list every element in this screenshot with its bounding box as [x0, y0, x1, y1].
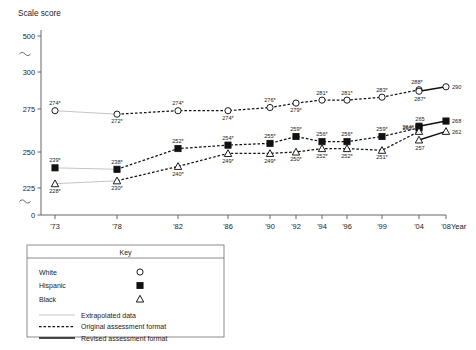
data-label-white: 281* — [341, 90, 353, 96]
data-label-black: 228* — [49, 188, 61, 194]
data-point-white — [114, 111, 120, 117]
y-axis-break-upper-icon — [20, 52, 31, 55]
legend-marker-hispanic — [137, 282, 143, 288]
legend-line-label-2: Revised assessment format — [81, 335, 167, 342]
x-tick-label: '94 — [317, 222, 327, 231]
data-label-black: 249* — [264, 158, 276, 164]
x-tick-label: '86 — [223, 222, 233, 231]
data-label-white: 274* — [222, 115, 234, 121]
data-label-revised-hispanic: 265 — [415, 116, 424, 122]
data-label-black: 252* — [341, 153, 353, 159]
data-point-hispanic — [379, 133, 385, 139]
data-point-white — [379, 94, 385, 100]
data-point-white — [267, 104, 273, 110]
x-tick-label: '90 — [265, 222, 275, 231]
data-point-white — [175, 108, 181, 114]
y-tick-label: 275 — [23, 105, 35, 114]
legend-marker-white — [137, 269, 143, 275]
data-label-black: 230* — [111, 185, 123, 191]
data-label-white: 279* — [290, 107, 302, 113]
data-point-white — [225, 108, 231, 114]
x-tick-label: '82 — [173, 222, 183, 231]
data-label-white: 276* — [264, 97, 276, 103]
trend-line-chart: Scale score0225250275300500'73'78'82'86'… — [0, 0, 476, 350]
data-label-white: 288* — [411, 79, 423, 85]
data-label-white: 272* — [111, 118, 123, 124]
legend-line-label-1: Original assessment format — [81, 323, 166, 331]
data-label-hispanic: 252* — [172, 138, 184, 144]
data-point-black — [318, 145, 325, 152]
data-point-revised-white — [443, 84, 449, 90]
data-point-white — [344, 97, 350, 103]
data-label-black: 240* — [172, 171, 184, 177]
x-tick-label: '73 — [50, 222, 60, 231]
y-tick-label: 0 — [31, 211, 35, 220]
data-label-black: 252* — [316, 153, 328, 159]
data-label-hispanic: 254* — [222, 135, 234, 141]
extrapolated-segment-black — [55, 181, 117, 184]
data-label-hispanic: 255* — [264, 133, 276, 139]
data-point-white — [319, 97, 325, 103]
data-point-white — [52, 108, 58, 114]
data-label-revised-white: 287* — [414, 96, 426, 102]
data-label-white: 274* — [49, 100, 61, 106]
data-label-white: 281* — [316, 90, 328, 96]
data-label-hispanic: 259* — [376, 126, 388, 132]
x-tick-label: '08 — [441, 222, 451, 231]
x-tick-label: '99 — [377, 222, 387, 231]
data-label-hispanic: 256* — [316, 131, 328, 137]
legend-label-black: Black — [39, 296, 57, 303]
revised-format-line-black — [419, 131, 446, 140]
chart-container: Scale score0225250275300500'73'78'82'86'… — [0, 0, 476, 350]
data-label-hispanic: 239* — [49, 157, 61, 163]
data-label-black: 251* — [376, 154, 388, 160]
data-label-revised-hispanic: 268 — [452, 118, 461, 124]
data-label-hispanic: 259* — [290, 126, 302, 132]
data-label-revised-white: 290 — [452, 84, 461, 90]
data-label-black: 262* — [402, 125, 414, 131]
legend-line-label-0: Extrapolated data — [81, 312, 136, 320]
data-point-hispanic — [267, 140, 273, 146]
data-label-revised-black: 262 — [452, 129, 461, 135]
data-label-black: 249* — [222, 158, 234, 164]
data-point-hispanic — [52, 165, 58, 171]
data-point-revised-white — [416, 88, 422, 94]
legend-title: Key — [119, 249, 132, 257]
revised-format-line-white — [419, 87, 446, 91]
x-tick-label: '96 — [342, 222, 352, 231]
data-point-hispanic — [225, 142, 231, 148]
data-point-white — [293, 100, 299, 106]
data-point-revised-black — [442, 128, 449, 135]
x-tick-label: '92 — [291, 222, 301, 231]
y-tick-label: 300 — [23, 68, 35, 77]
y-tick-label: 225 — [23, 184, 35, 193]
y-tick-label: 500 — [23, 32, 35, 41]
data-point-black — [224, 150, 231, 157]
data-point-hispanic — [344, 139, 350, 145]
x-axis-title: Year — [451, 222, 467, 231]
data-label-white: 283* — [376, 87, 388, 93]
data-label-black: 250* — [290, 156, 302, 162]
extrapolated-segment-white — [55, 111, 117, 114]
y-axis-break-lower-icon — [20, 200, 31, 203]
data-point-hispanic — [114, 166, 120, 172]
data-point-hispanic — [293, 133, 299, 139]
extrapolated-segment-hispanic — [55, 168, 117, 169]
data-point-hispanic — [175, 145, 181, 151]
y-tick-label: 250 — [23, 148, 35, 157]
data-point-revised-hispanic — [443, 118, 449, 124]
data-label-revised-black: 257 — [415, 145, 424, 151]
data-label-white: 274* — [172, 100, 184, 106]
y-axis-title: Scale score — [18, 9, 61, 18]
x-tick-label: '78 — [112, 222, 122, 231]
legend-label-hispanic: Hispanic — [39, 282, 66, 290]
legend-label-white: White — [39, 269, 57, 276]
data-label-hispanic: 238* — [111, 159, 123, 165]
x-tick-label: '04 — [414, 222, 424, 231]
data-label-hispanic: 256* — [341, 131, 353, 137]
revised-format-line-hispanic — [419, 121, 446, 126]
data-point-hispanic — [319, 139, 325, 145]
